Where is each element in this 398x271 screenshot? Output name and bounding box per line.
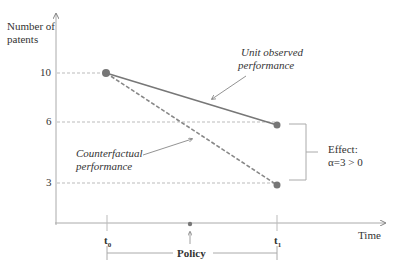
observed-label-line1: Unit observed [241, 46, 303, 59]
observed-label-line2: performance [238, 59, 294, 72]
effect-label: Effect: [328, 143, 358, 156]
diagram-canvas [0, 0, 398, 271]
x-tick-t0: t0 [104, 234, 111, 252]
policy-label: Policy [177, 247, 206, 260]
observed-line [106, 73, 277, 125]
x-axis-label: Time [358, 229, 381, 242]
y-tick-10: 10 [40, 66, 51, 79]
x-tick-t1: t1 [274, 234, 281, 252]
counterfactual-label-line2: performance [76, 160, 132, 173]
y-tick-3: 3 [46, 176, 52, 189]
y-tick-6: 6 [46, 115, 52, 128]
effect-value: α=3 > 0 [328, 156, 363, 169]
y-axis-label-line2: patents [7, 33, 38, 46]
y-axis-label-line1: Number of [7, 20, 55, 33]
counterfactual-label-line1: Counterfactual [76, 147, 143, 160]
